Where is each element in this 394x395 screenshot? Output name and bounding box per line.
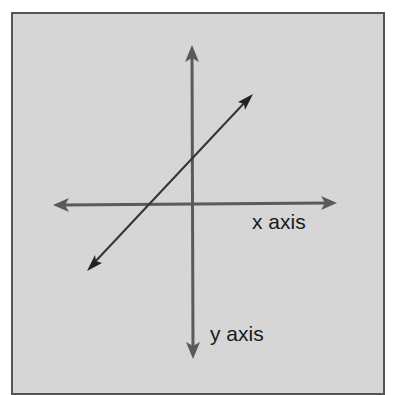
x-axis-line bbox=[62, 203, 328, 205]
y-axis-line bbox=[192, 55, 193, 350]
diagonal-line bbox=[87, 94, 253, 271]
diagonal-line-segment bbox=[93, 100, 247, 264]
y-axis-label: y axis bbox=[210, 323, 264, 344]
y-axis bbox=[185, 45, 200, 359]
axes-diagram bbox=[0, 0, 394, 395]
x-axis-label: x axis bbox=[252, 211, 306, 232]
